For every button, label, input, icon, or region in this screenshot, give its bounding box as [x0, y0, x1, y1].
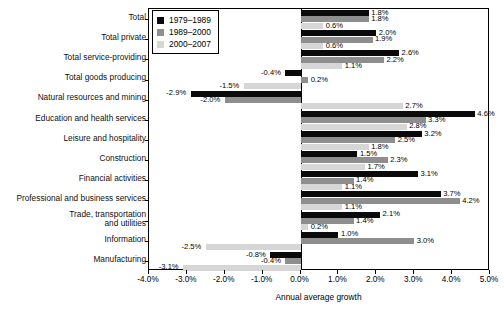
bar — [301, 43, 324, 49]
bar — [285, 258, 300, 264]
bar-value-label: -2.0% — [200, 96, 220, 104]
x-axis-title: Annual average growth — [148, 292, 489, 302]
x-tick — [413, 270, 414, 274]
bar-value-label: 0.6% — [326, 42, 343, 50]
bar — [301, 204, 343, 210]
x-tick — [375, 270, 376, 274]
bar-value-label: 0.6% — [326, 22, 343, 30]
category-tick — [145, 19, 149, 20]
bar — [301, 238, 415, 244]
bar-value-label: 0.2% — [311, 223, 328, 231]
bar-value-label: -2.9% — [166, 89, 186, 97]
legend-swatch-icon — [157, 41, 164, 48]
bar — [301, 198, 460, 204]
category-label: Professional and business services — [0, 194, 146, 203]
bar-value-label: 1.1% — [345, 203, 362, 211]
bar — [301, 117, 426, 123]
category-tick — [145, 241, 149, 242]
bar-value-label: 3.3% — [428, 116, 445, 124]
bar — [301, 224, 309, 230]
bar-value-label: 2.7% — [405, 102, 422, 110]
x-tick-label: 5.0% — [469, 275, 504, 284]
bar-value-label: 1.8% — [371, 15, 388, 23]
legend-item: 2000–2007 — [157, 38, 211, 50]
x-tick-label: -3.0% — [166, 275, 206, 284]
x-tick-label: 4.0% — [431, 275, 471, 284]
category-tick — [145, 200, 149, 201]
bar-value-label: 3.7% — [443, 190, 460, 198]
bar — [301, 191, 441, 197]
category-tick — [145, 160, 149, 161]
bar-value-label: 3.0% — [417, 237, 434, 245]
bar — [301, 57, 384, 63]
bar-value-label: 1.5% — [360, 150, 377, 158]
x-tick — [186, 270, 187, 274]
category-tick — [145, 221, 149, 222]
bar — [301, 50, 400, 56]
bar-value-label: -3.1% — [159, 263, 179, 271]
category-label: Information — [0, 235, 146, 244]
bar — [301, 23, 324, 29]
bar — [301, 103, 403, 109]
bar-value-label: 1.0% — [341, 230, 358, 238]
bar-value-label: 1.4% — [356, 217, 373, 225]
category-axis-labels: TotalTotal privateTotal service-providin… — [0, 0, 146, 314]
bar-value-label: -0.4% — [261, 69, 281, 77]
bar-value-label: 4.2% — [462, 197, 479, 205]
bar — [301, 77, 309, 83]
x-tick-label: -2.0% — [204, 275, 244, 284]
category-tick — [145, 100, 149, 101]
bar-value-label: 2.5% — [398, 136, 415, 144]
bar — [301, 124, 407, 130]
x-tick-label: 1.0% — [317, 275, 357, 284]
x-tick — [262, 270, 263, 274]
bar — [301, 111, 475, 117]
bar — [301, 164, 365, 170]
x-tick-label: 2.0% — [355, 275, 395, 284]
category-tick — [145, 261, 149, 262]
category-label: Total goods producing — [0, 73, 146, 82]
legend-swatch-icon — [157, 29, 164, 36]
category-tick — [145, 140, 149, 141]
category-tick — [145, 120, 149, 121]
bar-value-label: -0.4% — [261, 257, 281, 265]
bar-value-label: 4.6% — [477, 110, 494, 118]
category-label: Education and health services — [0, 114, 146, 123]
legend-item: 1989–2000 — [157, 26, 211, 38]
category-label: Financial activities — [0, 174, 146, 183]
bar-value-label: 1.1% — [345, 183, 362, 191]
category-label: Total service-providing — [0, 53, 146, 62]
x-tick — [337, 270, 338, 274]
legend: 1979–19891989–20002000–2007 — [152, 10, 219, 54]
bar — [301, 184, 343, 190]
bar-value-label: 3.2% — [424, 130, 441, 138]
bar-value-label: 1.9% — [375, 35, 392, 43]
category-label: Trade, transportation and utilities — [0, 210, 146, 229]
bar — [301, 30, 377, 36]
bar-value-label: 2.1% — [383, 210, 400, 218]
legend-swatch-icon — [157, 17, 164, 24]
bar-value-label: 2.3% — [390, 156, 407, 164]
category-label: Manufacturing — [0, 255, 146, 264]
category-label: Total private — [0, 33, 146, 42]
category-tick — [145, 59, 149, 60]
x-tick-label: -1.0% — [242, 275, 282, 284]
bar — [183, 265, 300, 271]
x-tick — [224, 270, 225, 274]
category-tick — [145, 39, 149, 40]
legend-label: 1979–1989 — [169, 16, 211, 24]
bar-value-label: -2.5% — [182, 243, 202, 251]
legend-label: 1989–2000 — [169, 28, 211, 36]
category-tick — [145, 80, 149, 81]
bar-value-label: 1.1% — [345, 62, 362, 70]
bar — [225, 97, 301, 103]
x-tick — [300, 270, 301, 274]
x-tick-label: 0.0% — [280, 275, 320, 284]
category-tick — [145, 180, 149, 181]
x-tick — [451, 270, 452, 274]
bar — [244, 83, 301, 89]
x-tick — [489, 270, 490, 274]
bar — [301, 10, 369, 16]
bar-value-label: -1.5% — [219, 82, 239, 90]
bar — [301, 63, 343, 69]
